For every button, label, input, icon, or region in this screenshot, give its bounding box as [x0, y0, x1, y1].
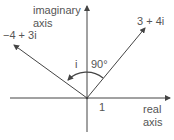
real-axis-label: real [143, 103, 161, 115]
angle-90-label: 90° [91, 58, 108, 70]
rotation-arc [68, 72, 103, 80]
unit-tick-label: 1 [99, 101, 105, 113]
imaginary-axis-label-2: axis [33, 17, 53, 29]
vector-label-3-plus-4i: 3 + 4i [137, 15, 164, 27]
origin-point [86, 97, 89, 100]
real-axis-label-2: axis [143, 116, 163, 128]
multiplier-i-label: i [75, 58, 77, 70]
complex-plane-diagram: imaginary axis 3 + 4i −4 + 3i i 90° 1 re… [0, 0, 174, 140]
vector-minus-4-plus-3i [14, 45, 87, 98]
imaginary-axis-label: imaginary [33, 4, 81, 16]
vector-label-minus-4-plus-3i: −4 + 3i [3, 29, 37, 41]
